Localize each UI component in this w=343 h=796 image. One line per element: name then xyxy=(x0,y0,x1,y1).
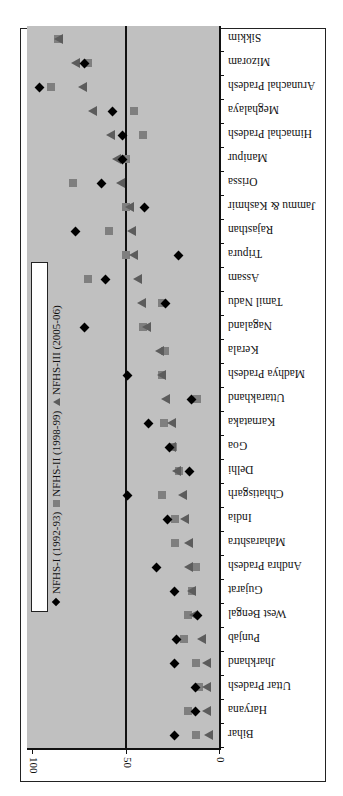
triangle-data-point xyxy=(129,250,138,260)
triangle-data-point xyxy=(184,538,193,548)
category-tick xyxy=(219,195,224,196)
category-tick xyxy=(219,459,224,460)
legend-label: NFHS-III (2005-06) xyxy=(50,305,62,395)
triangle-data-point xyxy=(202,682,211,692)
legend-item-nfhs2: NFHS-II (1998-99) xyxy=(50,411,62,507)
triangle-data-point xyxy=(155,346,164,356)
triangle-data-point xyxy=(202,658,211,668)
square-data-point xyxy=(47,83,55,91)
category-tick xyxy=(219,267,224,268)
category-tick xyxy=(219,291,224,292)
triangle-data-point xyxy=(137,298,146,308)
triangle-data-point xyxy=(142,322,151,332)
category-label: Tamil Nadu xyxy=(228,296,323,308)
category-tick xyxy=(219,555,224,556)
square-data-point xyxy=(84,275,92,283)
category-label: Bihar xyxy=(228,728,323,740)
square-data-point xyxy=(105,227,113,235)
category-label: Nagaland xyxy=(228,320,323,332)
legend: NFHS-I (1992-93) NFHS-II (1998-99) NFHS-… xyxy=(31,262,48,612)
square-data-point xyxy=(139,131,147,139)
category-label: Himachal Pradesh xyxy=(228,128,323,140)
square-data-point xyxy=(171,539,179,547)
triangle-data-point xyxy=(116,178,125,188)
triangle-data-point xyxy=(204,730,213,740)
category-label: Uttar Pradesh xyxy=(228,680,323,692)
triangle-data-point xyxy=(172,466,181,476)
triangle-data-point xyxy=(78,82,87,92)
triangle-data-point xyxy=(106,130,115,140)
triangle-data-point xyxy=(202,706,211,716)
category-label: Assam xyxy=(228,272,323,284)
square-data-point xyxy=(192,731,200,739)
category-label: Rajasthan xyxy=(228,224,323,236)
category-label: Gujarat xyxy=(228,584,323,596)
category-tick xyxy=(219,627,224,628)
triangle-data-point xyxy=(157,370,166,380)
category-label: Delhi xyxy=(228,464,323,476)
diamond-marker-icon xyxy=(52,598,60,606)
triangle-data-point xyxy=(127,226,136,236)
triangle-data-point xyxy=(125,202,134,212)
category-tick xyxy=(219,435,224,436)
category-label: Chhatisgarh xyxy=(228,488,323,500)
category-tick xyxy=(219,315,224,316)
category-tick xyxy=(219,147,224,148)
category-label: Andhra Pradesh xyxy=(228,560,323,572)
category-tick xyxy=(219,507,224,508)
category-label: Madhya Pradesh xyxy=(228,368,323,380)
category-tick xyxy=(219,51,224,52)
category-label: Jharkhand xyxy=(228,656,323,668)
category-label: Uttarakhand xyxy=(228,392,323,404)
triangle-data-point xyxy=(54,34,63,44)
triangle-data-point xyxy=(197,634,206,644)
category-tick xyxy=(219,123,224,124)
category-label: Haryana xyxy=(228,704,323,716)
category-tick xyxy=(219,483,224,484)
square-data-point xyxy=(158,491,166,499)
category-label: Orissa xyxy=(228,176,323,188)
category-label: Maharashtra xyxy=(228,536,323,548)
category-tick xyxy=(219,723,224,724)
category-tick xyxy=(219,171,224,172)
value-axis xyxy=(27,748,220,750)
legend-item-nfhs1: NFHS-I (1992-93) xyxy=(50,512,62,607)
triangle-marker-icon xyxy=(53,398,60,406)
category-label: Meghalaya xyxy=(228,104,323,116)
category-label: Arunachal Pradesh xyxy=(228,80,323,92)
category-axis xyxy=(219,26,221,750)
value-label-100: 100 xyxy=(28,757,40,774)
triangle-data-point xyxy=(161,394,170,404)
category-tick xyxy=(219,531,224,532)
value-label-0: 0 xyxy=(215,757,227,763)
square-data-point xyxy=(69,179,77,187)
legend-label: NFHS-II (1998-99) xyxy=(50,411,62,497)
category-tick xyxy=(219,363,224,364)
category-tick xyxy=(219,387,224,388)
triangle-data-point xyxy=(180,514,189,524)
legend-item-nfhs3: NFHS-III (2005-06) xyxy=(50,305,62,406)
category-tick xyxy=(219,99,224,100)
category-label: Punjab xyxy=(228,632,323,644)
category-label: Sikkim xyxy=(228,32,323,44)
category-tick xyxy=(219,675,224,676)
triangle-data-point xyxy=(178,490,187,500)
category-label: Manipur xyxy=(228,152,323,164)
triangle-data-point xyxy=(184,562,193,572)
category-label: West Bengal xyxy=(228,608,323,620)
triangle-data-point xyxy=(133,274,142,284)
category-tick xyxy=(219,747,224,748)
category-tick xyxy=(219,219,224,220)
category-label: Mizoram xyxy=(228,56,323,68)
triangle-data-point xyxy=(187,586,196,596)
category-tick xyxy=(219,603,224,604)
category-tick xyxy=(219,411,224,412)
category-label: Tripura xyxy=(228,248,323,260)
category-label: Jammu & Kashmir xyxy=(228,200,323,212)
value-tick-100 xyxy=(32,749,33,754)
triangle-data-point xyxy=(167,418,176,428)
category-tick xyxy=(219,699,224,700)
square-marker-icon xyxy=(53,500,60,507)
category-tick xyxy=(219,75,224,76)
value-tick-0 xyxy=(219,749,220,754)
